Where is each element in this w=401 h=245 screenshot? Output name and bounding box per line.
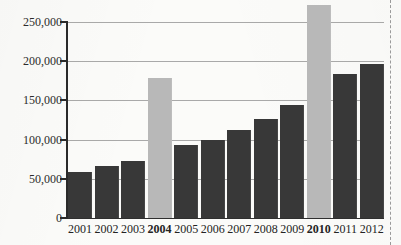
axis-baseline (68, 218, 384, 219)
bar-slot (254, 22, 278, 218)
y-axis-tick-mark (60, 178, 68, 180)
bar-slot (121, 22, 145, 218)
bar-2006[interactable] (201, 140, 225, 218)
x-axis-labels: 2001200220032004200520062007200820092010… (68, 223, 384, 243)
bar-2011[interactable] (333, 74, 357, 218)
y-axis-tick-mark (60, 99, 68, 101)
bar-slot (360, 22, 384, 218)
bar-slot (95, 22, 119, 218)
chart-page: 050,000100,000150,000200,000250,000 2001… (0, 0, 401, 245)
y-axis-tick-mark (60, 60, 68, 62)
x-axis-tick-label-2003: 2003 (121, 223, 145, 243)
x-axis-tick-label-2009: 2009 (280, 223, 304, 243)
bar-2007[interactable] (227, 130, 251, 218)
y-axis-tick-mark (60, 217, 68, 219)
x-axis-tick-label-2012: 2012 (360, 223, 384, 243)
bar-2008[interactable] (254, 119, 278, 218)
bar-2010[interactable] (307, 5, 331, 218)
x-axis-tick-label-2002: 2002 (95, 223, 119, 243)
x-axis-tick-label-2010: 2010 (307, 223, 331, 243)
bar-2005[interactable] (174, 145, 198, 218)
y-axis-tick-mark (60, 21, 68, 23)
bar-slot (174, 22, 198, 218)
y-axis-labels: 050,000100,000150,000200,000250,000 (0, 0, 62, 245)
bar-slot (148, 22, 172, 218)
bar-2002[interactable] (95, 166, 119, 218)
bar-slot (201, 22, 225, 218)
x-axis-tick-label-2006: 2006 (201, 223, 225, 243)
bar-2009[interactable] (280, 105, 304, 218)
x-axis-tick-label-2005: 2005 (174, 223, 198, 243)
bar-slot (307, 22, 331, 218)
x-axis-tick-label-2011: 2011 (333, 223, 357, 243)
bar-slot (227, 22, 251, 218)
bar-2003[interactable] (121, 161, 145, 218)
bar-2012[interactable] (360, 64, 384, 218)
y-axis-tick-label: 100,000 (23, 134, 62, 146)
y-axis-tick-label: 200,000 (23, 55, 62, 67)
y-axis-tick-label: 50,000 (29, 173, 62, 185)
bar-2004[interactable] (148, 78, 172, 218)
bar-series (68, 22, 384, 218)
y-axis-tick-mark (60, 139, 68, 141)
y-axis-tick-label: 150,000 (23, 94, 62, 106)
bar-2001[interactable] (68, 172, 92, 218)
page-margin-rule (390, 0, 391, 245)
bar-slot (68, 22, 92, 218)
x-axis-tick-label-2001: 2001 (68, 223, 92, 243)
x-axis-tick-label-2007: 2007 (227, 223, 251, 243)
plot-area (68, 22, 384, 218)
x-axis-tick-label-2008: 2008 (254, 223, 278, 243)
bar-slot (280, 22, 304, 218)
y-axis-tick-label: 250,000 (23, 16, 62, 28)
bar-slot (333, 22, 357, 218)
x-axis-tick-label-2004: 2004 (148, 223, 172, 243)
